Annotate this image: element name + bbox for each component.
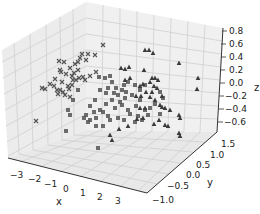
z-tick: 0.4 bbox=[229, 52, 244, 62]
scatter-3d-chart: 0.8 0.6 0.4 0.2 0.0 −0.2 −0.4 −0.6 z −1.… bbox=[0, 0, 260, 214]
data-point-class-square bbox=[128, 112, 132, 116]
data-point-class-square bbox=[106, 114, 110, 118]
data-point-class-square bbox=[123, 96, 127, 100]
data-point-class-square bbox=[108, 74, 112, 78]
data-point-class-square bbox=[122, 83, 126, 87]
z-tick-labels: 0.8 0.6 0.4 0.2 0.0 −0.2 −0.4 −0.6 bbox=[224, 26, 247, 127]
data-point-class-square bbox=[120, 103, 124, 107]
y-tick: 1.5 bbox=[221, 139, 235, 149]
data-point-class-square bbox=[146, 113, 150, 117]
x-tick: 0 bbox=[63, 184, 69, 194]
z-axis-label: z bbox=[254, 82, 259, 93]
z-tick: 0.2 bbox=[229, 65, 243, 75]
data-point-class-square bbox=[138, 98, 142, 102]
data-point-class-square bbox=[153, 102, 157, 106]
x-tick: 1 bbox=[80, 188, 86, 198]
data-point-class-square bbox=[104, 102, 108, 106]
x-tick: −1 bbox=[44, 179, 57, 189]
z-tick: −0.4 bbox=[225, 104, 247, 114]
y-axis-label: y bbox=[207, 177, 213, 188]
data-point-class-square bbox=[66, 108, 70, 112]
data-point-class-square bbox=[76, 88, 80, 92]
x-axis-label: x bbox=[56, 196, 62, 207]
data-point-class-square bbox=[96, 146, 100, 150]
z-tick: 0.0 bbox=[229, 78, 244, 88]
data-point-class-square bbox=[106, 86, 110, 90]
data-point-class-square bbox=[116, 116, 120, 120]
z-tick: −0.2 bbox=[225, 91, 247, 101]
data-point-class-square bbox=[71, 98, 75, 102]
data-point-class-square bbox=[133, 83, 137, 87]
data-point-class-square bbox=[130, 93, 134, 97]
data-point-class-square bbox=[97, 75, 101, 79]
data-point-class-square bbox=[68, 113, 72, 117]
y-tick: 0.0 bbox=[186, 170, 201, 180]
x-tick: 3 bbox=[115, 196, 121, 206]
y-tick: −1.0 bbox=[152, 195, 174, 205]
data-point-class-square bbox=[114, 86, 118, 90]
data-point-class-square bbox=[110, 98, 114, 102]
data-point-class-square bbox=[158, 112, 162, 116]
data-point-class-square bbox=[104, 91, 108, 95]
data-point-class-square bbox=[116, 93, 120, 97]
data-point-class-square bbox=[94, 124, 98, 128]
y-tick: −0.5 bbox=[167, 181, 189, 191]
data-point-class-square bbox=[113, 106, 117, 110]
z-tick: 0.8 bbox=[229, 26, 244, 36]
data-point-class-square bbox=[103, 76, 107, 80]
data-point-class-square bbox=[148, 106, 152, 110]
data-point-class-square bbox=[134, 104, 138, 108]
data-point-class-square bbox=[82, 116, 86, 120]
y-tick: 1.0 bbox=[210, 150, 225, 160]
data-point-class-square bbox=[86, 120, 90, 124]
x-tick: −2 bbox=[28, 174, 41, 184]
data-point-class-square bbox=[101, 124, 105, 128]
data-point-class-square bbox=[126, 108, 130, 112]
data-point-class-square bbox=[88, 104, 92, 108]
x-tick: 2 bbox=[97, 192, 103, 202]
data-point-class-square bbox=[112, 91, 116, 95]
data-point-class-square bbox=[101, 110, 105, 114]
z-tick: 0.6 bbox=[229, 39, 244, 49]
data-point-class-square bbox=[98, 88, 102, 92]
data-point-class-square bbox=[93, 98, 97, 102]
z-tick: −0.6 bbox=[224, 117, 246, 127]
data-point-class-square bbox=[120, 88, 124, 92]
data-point-class-square bbox=[108, 118, 112, 122]
x-tick: −3 bbox=[10, 170, 23, 180]
data-point-class-square bbox=[122, 118, 126, 122]
data-point-class-square bbox=[94, 116, 98, 120]
data-point-class-square bbox=[110, 80, 114, 84]
y-tick: 0.5 bbox=[196, 160, 210, 170]
data-point-class-square bbox=[158, 90, 162, 94]
data-point-class-square bbox=[138, 88, 142, 92]
data-point-class-square bbox=[124, 90, 128, 94]
data-point-class-square bbox=[64, 129, 68, 133]
data-point-class-square bbox=[92, 110, 96, 114]
